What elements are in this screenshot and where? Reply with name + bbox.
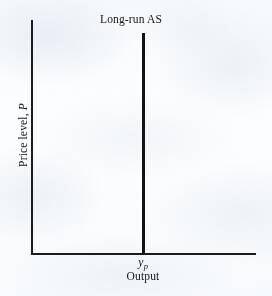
lras-diagram-figure: Long-run AS Price level, P yp Output — [0, 0, 272, 296]
paper-texture-overlay — [0, 0, 272, 296]
x-axis-tick-label-potential-output: yp — [138, 256, 147, 268]
long-run-as-curve — [142, 33, 145, 255]
x-axis-label: Output — [127, 270, 160, 282]
long-run-as-curve-label: Long-run AS — [0, 13, 267, 25]
y-axis-label-text: Price level, — [17, 110, 29, 167]
y-axis-line — [31, 20, 33, 255]
x-tick-subscript: p — [144, 261, 148, 271]
y-axis-label: Price level, P — [17, 75, 29, 195]
y-axis-label-symbol: P — [17, 103, 29, 110]
